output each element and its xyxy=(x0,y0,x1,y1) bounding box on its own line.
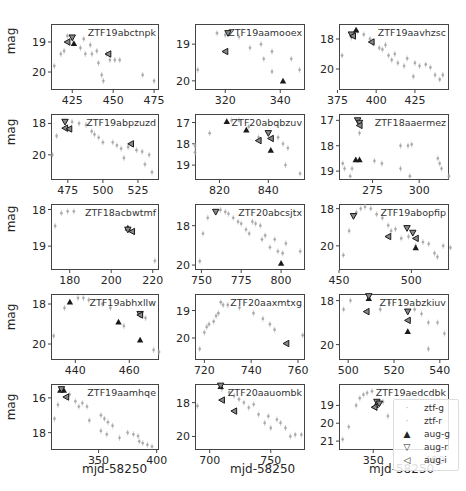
triangle-up-icon: ▲ xyxy=(398,429,416,439)
svg-text:20: 20 xyxy=(320,240,334,253)
panel-ztf20aauombk: 7007501820ZTF20aauombk xyxy=(195,384,305,450)
svg-text:20: 20 xyxy=(320,417,334,430)
panel-ztf19abhxllw: 4404601820ZTF19abhxllw xyxy=(51,294,159,360)
svg-text:18: 18 xyxy=(176,397,190,410)
svg-text:750: 750 xyxy=(191,274,212,287)
panel-title: ZTF19aamhqe xyxy=(87,387,156,398)
x-axis-label-col2: mjd-58250 xyxy=(230,462,295,476)
dot-marker-icon: · xyxy=(398,403,416,413)
svg-text:18: 18 xyxy=(320,33,334,46)
svg-text:475: 475 xyxy=(144,94,165,107)
panel-ztf19aamooex: 3203401920ZTF19aamooex xyxy=(195,24,305,90)
svg-text:20: 20 xyxy=(176,75,190,88)
triangle-down-icon: ▽ xyxy=(398,442,416,452)
svg-text:18: 18 xyxy=(176,138,190,151)
svg-text:200: 200 xyxy=(101,274,122,287)
svg-text:500: 500 xyxy=(401,274,422,287)
panel-title: ZTF20aaxmtxg xyxy=(230,297,302,308)
svg-text:16: 16 xyxy=(32,392,46,405)
svg-text:840: 840 xyxy=(258,184,279,197)
panel-ztf19aavhzsc: 3754004251820ZTF19aavhzsc xyxy=(339,24,449,90)
svg-text:740: 740 xyxy=(241,364,262,377)
svg-text:18: 18 xyxy=(176,220,190,233)
svg-text:20: 20 xyxy=(32,149,46,162)
svg-text:19: 19 xyxy=(32,36,46,49)
svg-text:19: 19 xyxy=(176,305,190,318)
svg-text:720: 720 xyxy=(194,364,215,377)
panel-ztf20abcsjtx: 7507758001820ZTF20abcsjtx xyxy=(195,204,305,270)
svg-text:17: 17 xyxy=(176,117,190,130)
svg-text:700: 700 xyxy=(199,454,220,467)
triangle-left-icon: ◁ xyxy=(398,455,416,465)
svg-text:500: 500 xyxy=(338,364,359,377)
panel-title: ZTF18acbwtmf xyxy=(85,207,157,218)
svg-text:275: 275 xyxy=(362,184,383,197)
panel-title: ZTF19abzkiuv xyxy=(380,297,447,308)
svg-text:475: 475 xyxy=(57,184,78,197)
legend-item-ztf-r: · ztf-r xyxy=(398,415,442,427)
svg-text:460: 460 xyxy=(119,364,140,377)
svg-text:19: 19 xyxy=(320,165,334,178)
x-axis-label-col1: mjd-58250 xyxy=(82,462,147,476)
svg-text:18: 18 xyxy=(320,295,334,308)
panel-title: ZTF19abctnpk xyxy=(88,27,157,38)
svg-text:17: 17 xyxy=(320,114,334,127)
svg-text:440: 440 xyxy=(65,364,86,377)
svg-text:775: 775 xyxy=(231,274,252,287)
svg-text:18: 18 xyxy=(320,203,334,216)
svg-text:20: 20 xyxy=(320,63,334,76)
panel-title: ZTF19aedcdbk xyxy=(376,387,447,398)
svg-text:18: 18 xyxy=(32,204,46,217)
svg-text:340: 340 xyxy=(270,94,291,107)
legend-item-aug-g: ▲ aug-g xyxy=(398,428,450,440)
panel-title: ZTF20aauombk xyxy=(228,387,303,398)
cropped-top-caption xyxy=(0,0,466,6)
y-axis-label-row1: mag xyxy=(4,28,18,55)
svg-text:800: 800 xyxy=(271,274,292,287)
panel-title: ZTF19abopfip xyxy=(380,207,446,218)
svg-text:300: 300 xyxy=(409,184,430,197)
svg-text:425: 425 xyxy=(404,94,425,107)
dot-marker-icon: · xyxy=(398,416,416,426)
y-axis-label-row3: mag xyxy=(4,206,18,233)
legend-item-aug-r: ▽ aug-r xyxy=(398,441,448,453)
svg-text:20: 20 xyxy=(32,338,46,351)
panel-title: ZTF20abcsjtx xyxy=(238,207,302,218)
svg-text:375: 375 xyxy=(327,94,348,107)
panel-title: ZTF19abpzuzd xyxy=(86,117,156,128)
svg-text:320: 320 xyxy=(215,94,236,107)
panel-ztf20aaxmtxg: 7207407601920ZTF20aaxmtxg xyxy=(195,294,305,360)
panel-title: ZTF18aaermez xyxy=(375,117,446,128)
panel-ztf19abzkiuv: 5005205401820ZTF19abzkiuv xyxy=(339,294,449,360)
panel-title: ZTF19abhxllw xyxy=(90,297,157,308)
svg-text:525: 525 xyxy=(127,184,148,197)
y-axis-label-row4: mag xyxy=(4,304,18,331)
panel-ztf19abpzuzd: 4755005251820ZTF19abpzuzd xyxy=(51,114,159,180)
svg-text:19: 19 xyxy=(176,38,190,51)
svg-text:450: 450 xyxy=(329,274,350,287)
svg-text:20: 20 xyxy=(176,332,190,345)
panel-title: ZTF19aavhzsc xyxy=(378,27,446,38)
legend: · ztf-g · ztf-r ▲ aug-g ▽ aug-r ◁ aug-i xyxy=(393,399,459,471)
legend-item-ztf-g: · ztf-g xyxy=(398,402,444,414)
svg-text:425: 425 xyxy=(62,94,83,107)
svg-text:400: 400 xyxy=(146,454,167,467)
svg-text:19: 19 xyxy=(32,240,46,253)
legend-item-aug-i: ◁ aug-i xyxy=(398,454,447,466)
panel-ztf19aamhqe: 3504001618ZTF19aamhqe xyxy=(51,384,159,450)
svg-text:220: 220 xyxy=(142,274,163,287)
svg-text:20: 20 xyxy=(176,259,190,272)
panel-ztf18acbwtmf: 1802002201819ZTF18acbwtmf xyxy=(51,204,159,270)
svg-text:19: 19 xyxy=(320,399,334,412)
panel-title: ZTF20abqbzuv xyxy=(232,117,303,128)
svg-text:180: 180 xyxy=(59,274,80,287)
panel-ztf20abqbzuv: 820840171819ZTF20abqbzuv xyxy=(195,114,305,180)
svg-text:18: 18 xyxy=(32,427,46,440)
svg-text:450: 450 xyxy=(103,94,124,107)
svg-text:500: 500 xyxy=(92,184,113,197)
svg-text:520: 520 xyxy=(384,364,405,377)
svg-text:400: 400 xyxy=(366,94,387,107)
panel-ztf18aaermez: 275300171819ZTF18aaermez xyxy=(339,114,449,180)
svg-text:20: 20 xyxy=(320,339,334,352)
svg-text:20: 20 xyxy=(32,66,46,79)
